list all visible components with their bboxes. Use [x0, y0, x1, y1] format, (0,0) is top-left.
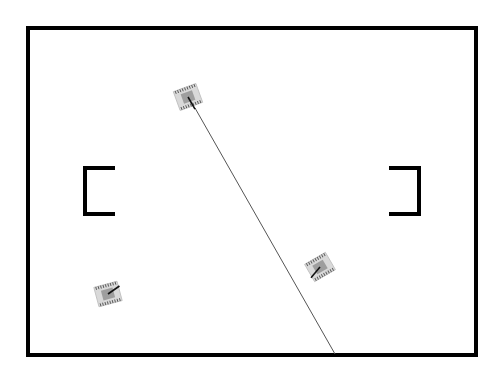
game-arena[interactable]	[0, 0, 498, 371]
arena-background	[0, 0, 498, 371]
